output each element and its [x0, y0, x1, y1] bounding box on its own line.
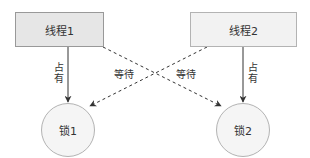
holds-label-left: 占有 [53, 62, 64, 84]
thread2-label: 线程2 [229, 22, 258, 38]
lock1-node: 锁1 [41, 103, 95, 157]
lock1-label: 锁1 [59, 122, 77, 138]
deadlock-diagram: 线程1 线程2 锁1 锁2 占有 占有 等待 等待 [0, 0, 310, 158]
thread1-node: 线程1 [15, 12, 104, 47]
thread2-node: 线程2 [190, 12, 297, 47]
holds-label-right: 占有 [247, 62, 258, 84]
lock2-node: 锁2 [216, 103, 270, 157]
thread1-label: 线程1 [45, 22, 74, 38]
wait-label-left: 等待 [114, 69, 134, 80]
wait-label-right: 等待 [176, 69, 196, 80]
lock2-label: 锁2 [234, 122, 252, 138]
